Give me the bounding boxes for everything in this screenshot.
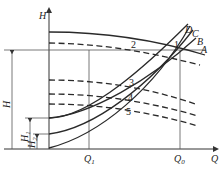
dashed-curve-3 (49, 80, 198, 105)
h-dim-label: H (1, 100, 12, 109)
point-1: 1 (174, 39, 179, 50)
curve-label-c: C (192, 28, 199, 39)
pump-characteristic-diagram: H Q Q1 Q0 H H1 H2 1 2 3 4 5 A B C D (0, 0, 220, 171)
q1-label: Q1 (84, 153, 95, 166)
q-axis-label: Q (211, 153, 219, 164)
h-axis-label: H (38, 10, 47, 21)
q0-label: Q0 (174, 153, 185, 166)
curve-label-d: D (184, 24, 193, 35)
point-5: 5 (126, 106, 131, 117)
point-2: 2 (131, 39, 136, 50)
point-3: 3 (129, 77, 134, 88)
point-4: 4 (128, 92, 133, 103)
